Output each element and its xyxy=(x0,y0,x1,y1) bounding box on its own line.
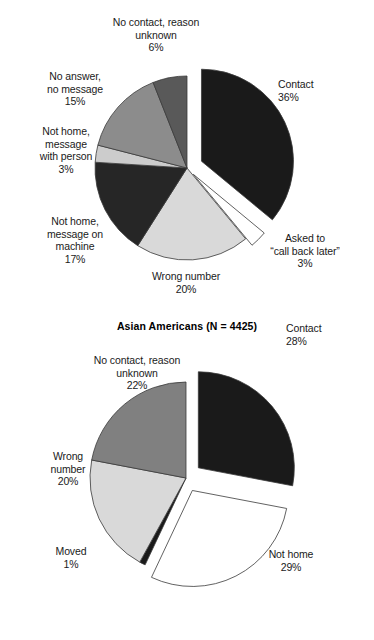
slice-label-no-answer: No answer, no message 15% xyxy=(20,70,130,108)
slice-label-no-contact-unknown-2: No contact, reason unknown 22% xyxy=(62,354,212,392)
slice-label-contact: Contact 36% xyxy=(278,78,370,103)
slice-label-contact-2: Contact 28% xyxy=(286,322,372,347)
slice-label-wrong-number-2: Wrong number 20% xyxy=(20,450,116,488)
pie-chart-asian-americans: No contact, reason unknown 6% No answer,… xyxy=(0,0,374,340)
pie-slice xyxy=(198,372,294,486)
slice-label-moved: Moved 1% xyxy=(28,545,114,570)
slice-label-message-with-person: Not home, message with person 3% xyxy=(8,125,124,175)
pie-chart-latinos: No contact, reason unknown 22% Wrong num… xyxy=(0,340,374,640)
slice-label-message-on-machine: Not home, message on machine 17% xyxy=(18,215,132,265)
slice-label-not-home: Not home 29% xyxy=(236,548,346,573)
slice-label-no-contact-unknown: No contact, reason unknown 6% xyxy=(88,16,224,54)
slice-label-wrong-number: Wrong number 20% xyxy=(118,270,254,295)
slice-label-call-back-later: Asked to “call back later” 3% xyxy=(242,232,368,270)
